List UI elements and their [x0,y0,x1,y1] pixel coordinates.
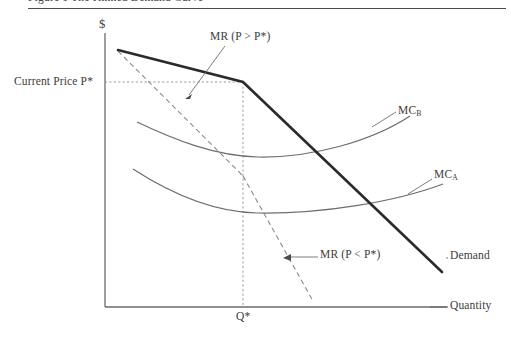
mc-b-curve [137,116,410,157]
mr-upper-line [118,51,243,176]
mc-a-label-text: MC [434,168,452,180]
mc-a-curve [133,169,443,213]
mc-b-label: MCB [398,105,421,117]
mc-a-label: MCA [434,169,458,181]
mr-lower-arrowhead [283,254,291,261]
quantity-star-label: Q* [236,311,250,323]
mr-upper-arrowhead [185,94,192,99]
y-axis-label: $ [99,18,105,31]
current-price-label: Current Price P* [14,76,93,88]
demand-label: Demand [450,250,490,262]
mc-b-label-subscript: B [416,109,421,118]
mr-upper-label: MR (P > P*) [210,31,270,43]
mr-lower-label: MR (P < P*) [320,249,380,261]
demand-curve [118,50,442,272]
figure-page: Figure 1 The Kinked Demand Curve [0,0,511,348]
mc-b-label-text: MC [398,104,416,116]
mc-b-leader-line [372,112,396,127]
x-axis-label: Quantity [450,300,491,312]
mr-lower-line [243,176,313,301]
mc-a-label-subscript: A [452,173,457,182]
